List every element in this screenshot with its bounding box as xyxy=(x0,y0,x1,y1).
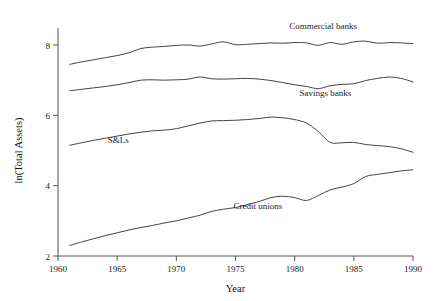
chart-figure: 24681960196519701975198019851990Commerci… xyxy=(0,0,439,301)
x-tick-label: 1965 xyxy=(108,264,127,274)
series-label-commercial-banks: Commercial banks xyxy=(289,21,357,31)
y-tick-label: 8 xyxy=(46,41,51,51)
y-tick-label: 4 xyxy=(46,181,51,191)
x-tick-label: 1980 xyxy=(286,264,305,274)
x-tick-label: 1985 xyxy=(345,264,364,274)
series-label-s-ls: S&Ls xyxy=(108,135,130,145)
x-tick-label: 1960 xyxy=(49,264,68,274)
y-tick-label: 2 xyxy=(46,252,51,262)
y-axis-title: ln(Total Assets) xyxy=(13,117,25,184)
x-tick-label: 1990 xyxy=(404,264,423,274)
y-tick-label: 6 xyxy=(46,111,51,121)
series-line-savings-banks xyxy=(70,77,413,91)
x-axis-title: Year xyxy=(226,283,246,294)
line-chart: 24681960196519701975198019851990Commerci… xyxy=(0,0,439,301)
x-tick-label: 1975 xyxy=(227,264,246,274)
x-tick-label: 1970 xyxy=(167,264,186,274)
series-line-commercial-banks xyxy=(70,41,413,64)
series-label-credit-unions: Credit unions xyxy=(234,201,283,211)
series-label-savings-banks: Savings banks xyxy=(300,88,352,98)
